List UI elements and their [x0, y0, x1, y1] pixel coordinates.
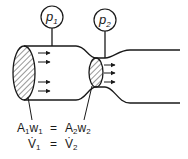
equation-volume-flow: V̇1 = V̇2: [28, 137, 78, 153]
gauge-p1-subscript: 1: [53, 17, 57, 26]
eq2-operator: =: [50, 137, 57, 151]
eq2-rhs-a: V̇: [65, 137, 73, 151]
pipe-top-wall: [24, 46, 180, 58]
eq2-rhs-a-sub: 2: [73, 143, 78, 152]
gauge-p2: p2: [94, 9, 116, 58]
eq1-lhs-a: A: [17, 121, 25, 135]
gauge-p1-label: p: [45, 9, 53, 24]
eq2-lhs-a-sub: 1: [36, 143, 41, 152]
throat-flow-arrows: [104, 65, 115, 82]
eq1-rhs-a: A: [65, 121, 73, 135]
inlet-cross-section: [13, 46, 35, 100]
pipe-bottom-wall: [24, 87, 180, 103]
inlet-flow-arrows: [38, 53, 50, 91]
eq1-lhs-b: w: [28, 121, 38, 135]
eq1-rhs-b: w: [76, 121, 86, 135]
eq1-operator: =: [50, 121, 57, 135]
throat-cross-section: [89, 58, 103, 87]
continuity-diagram: p1 p2 A1w1 = A2w2 V̇1 = V̇2: [0, 0, 188, 159]
eq1-lhs-b-sub: 1: [38, 127, 43, 136]
equation-area-velocity: A1w1 = A2w2: [17, 121, 91, 137]
gauge-p2-label: p: [98, 12, 106, 27]
gauge-p1: p1: [41, 6, 63, 46]
eq2-lhs-a: V̇: [28, 137, 36, 151]
eq1-rhs-b-sub: 2: [86, 127, 91, 136]
gauge-p2-subscript: 2: [105, 20, 111, 29]
